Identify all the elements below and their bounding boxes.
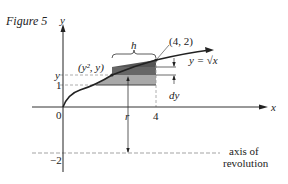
- tick-four-label: 4: [153, 111, 159, 122]
- curve-label: y = √x: [189, 55, 218, 66]
- strip-rect: [112, 67, 156, 75]
- x-axis-label: x: [271, 102, 276, 113]
- axis-revolution-line1: axis of: [229, 146, 259, 157]
- y-axis-label: y: [60, 15, 65, 26]
- width-label: h: [131, 40, 137, 51]
- origin-label: 0: [56, 110, 62, 121]
- figure-caption: Figure 5: [6, 15, 47, 27]
- tick-r-label: r: [125, 111, 129, 122]
- endpoint-label: (4, 2): [169, 36, 193, 47]
- point-label: (y², y): [78, 62, 104, 73]
- tick-neg2-label: −2: [50, 155, 62, 166]
- thickness-label: dy: [169, 90, 179, 101]
- tick-one-label: 1: [56, 80, 62, 91]
- axis-revolution-line2: revolution: [223, 158, 268, 169]
